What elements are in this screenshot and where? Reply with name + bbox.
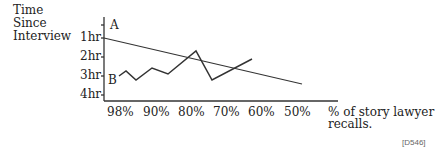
chart-plot <box>0 0 436 154</box>
series-b-line <box>119 51 252 80</box>
